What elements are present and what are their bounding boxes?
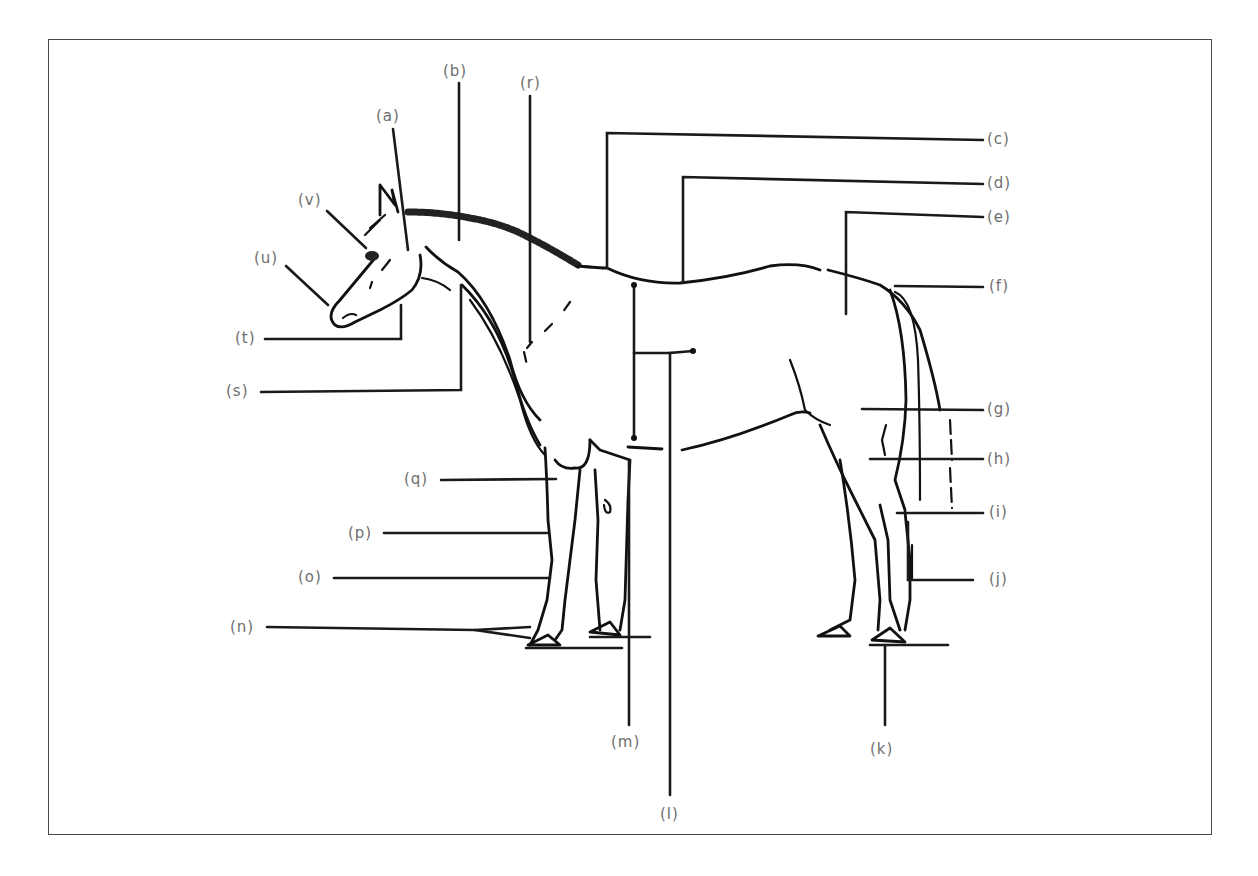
leader-g bbox=[862, 409, 983, 410]
horse-outline bbox=[331, 185, 952, 645]
label-g: (g) bbox=[987, 400, 1011, 418]
label-u: (u) bbox=[254, 249, 278, 267]
label-d: (d) bbox=[987, 174, 1011, 192]
leader-e bbox=[846, 212, 983, 314]
leader-u bbox=[286, 266, 328, 305]
label-j: (j) bbox=[989, 570, 1008, 588]
label-n: (n) bbox=[230, 618, 254, 636]
label-r: (r) bbox=[520, 74, 541, 92]
leader-v bbox=[327, 211, 366, 248]
label-i: (i) bbox=[989, 503, 1008, 521]
label-a: (a) bbox=[376, 107, 400, 125]
leader-n bbox=[267, 627, 530, 630]
horse-diagram: (a) (b) (r) (c) (d) (e) (f) (g) (h) (i) … bbox=[0, 0, 1258, 876]
label-l: (l) bbox=[660, 805, 679, 823]
label-v: (v) bbox=[298, 191, 322, 209]
labels: (a) (b) (r) (c) (d) (e) (f) (g) (h) (i) … bbox=[226, 62, 1011, 823]
label-k: (k) bbox=[870, 740, 893, 758]
label-h: (h) bbox=[987, 450, 1011, 468]
mane bbox=[408, 212, 578, 265]
label-e: (e) bbox=[987, 208, 1011, 226]
label-s: (s) bbox=[226, 382, 249, 400]
leader-d bbox=[683, 177, 983, 283]
label-q: (q) bbox=[404, 470, 428, 488]
eye bbox=[365, 251, 379, 261]
leader-c bbox=[607, 133, 983, 268]
label-p: (p) bbox=[348, 524, 372, 542]
label-b: (b) bbox=[443, 62, 467, 80]
leader-q bbox=[441, 479, 556, 480]
leader-l bbox=[670, 351, 693, 795]
leader-f bbox=[895, 286, 983, 287]
label-f: (f) bbox=[989, 277, 1009, 295]
label-t: (t) bbox=[235, 329, 256, 347]
leader-lines bbox=[261, 83, 983, 795]
label-o: (o) bbox=[298, 568, 322, 586]
leader-j bbox=[908, 522, 973, 580]
label-m: (m) bbox=[611, 733, 640, 751]
label-c: (c) bbox=[987, 130, 1010, 148]
leader-a bbox=[393, 129, 408, 250]
